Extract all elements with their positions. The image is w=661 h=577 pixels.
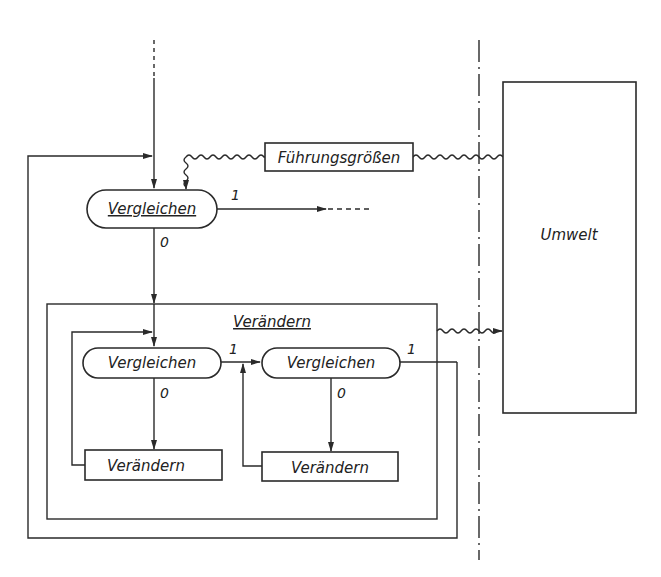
reference-label: Führungsgrößen: [278, 149, 401, 167]
inner1-no-label: 0: [160, 385, 169, 401]
inner-change-1-label: Verändern: [107, 457, 185, 475]
environment-box: [503, 82, 636, 413]
reference-wavy-horizontal: [186, 155, 265, 159]
change-group-label: Verändern: [233, 313, 311, 331]
inner1-yes-label: 1: [229, 341, 238, 357]
inner2-feedback-loop: [243, 364, 262, 466]
environment-label: Umwelt: [540, 226, 598, 244]
environment-wavy-line: [413, 155, 503, 159]
inner-change-2-label: Verändern: [291, 459, 369, 477]
diagram-canvas: Führungsgrößen Umwelt Vergleichen 1 0 Ve…: [0, 0, 661, 577]
action-wavy-line: [437, 329, 502, 333]
inner2-yes-label: 1: [407, 341, 416, 357]
inner-compare-1-label: Vergleichen: [108, 354, 196, 372]
top-compare-label: Vergleichen: [108, 200, 196, 218]
top-no-label: 0: [160, 234, 169, 250]
change-group-box: [47, 304, 437, 519]
inner-compare-2-label: Vergleichen: [287, 354, 375, 372]
top-yes-label: 1: [231, 187, 240, 203]
inner2-no-label: 0: [337, 385, 346, 401]
